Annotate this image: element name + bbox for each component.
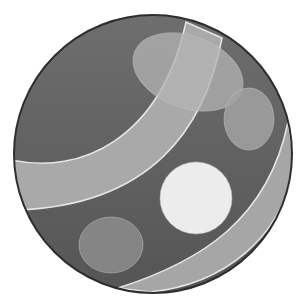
bottom-left-spot (79, 217, 143, 273)
ball-canvas (0, 0, 306, 303)
right-spot (224, 88, 274, 150)
ball-illustration (0, 0, 306, 303)
center-white-spot (160, 162, 232, 234)
